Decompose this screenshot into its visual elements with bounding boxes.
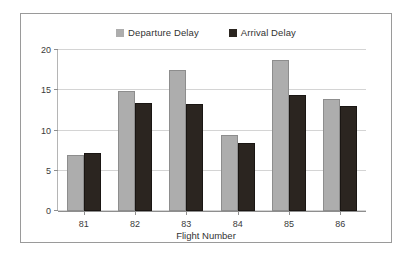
x-tick-mark (135, 211, 136, 215)
bar-arrival-81[interactable] (84, 153, 101, 211)
y-tick-label: 5 (46, 166, 51, 176)
bar-arrival-86[interactable] (340, 106, 357, 211)
bar-group (315, 50, 366, 211)
bar-arrival-84[interactable] (238, 143, 255, 211)
x-tick-cell: 86 (315, 215, 366, 229)
legend-label-arrival-delay: Arrival Delay (241, 27, 296, 38)
bar-series-container (58, 50, 366, 211)
x-tick-label: 86 (315, 215, 366, 229)
x-tick-label: 83 (161, 215, 212, 229)
x-tick-cell: 84 (212, 215, 263, 229)
x-tick-mark (340, 211, 341, 215)
legend-swatch-departure-delay (116, 29, 124, 37)
bar-group (58, 50, 109, 211)
x-tick-label: 84 (212, 215, 263, 229)
bar-group (109, 50, 160, 211)
x-axis-line (58, 211, 366, 212)
x-axis-title: Flight Number (21, 230, 391, 241)
bar-arrival-85[interactable] (289, 95, 306, 211)
bar-group (161, 50, 212, 211)
y-tick-label: 0 (46, 206, 51, 216)
x-tick-label: 81 (58, 215, 109, 229)
bar-group (263, 50, 314, 211)
bar-group (212, 50, 263, 211)
x-tick-mark (238, 211, 239, 215)
bar-departure-83[interactable] (169, 70, 186, 211)
bar-departure-81[interactable] (67, 155, 84, 211)
bar-arrival-83[interactable] (186, 104, 203, 211)
x-tick-cell: 82 (109, 215, 160, 229)
y-tick-label: 20 (41, 45, 51, 55)
x-tick-label: 82 (109, 215, 160, 229)
bar-arrival-82[interactable] (135, 103, 152, 211)
y-tick-label: 10 (41, 126, 51, 136)
x-tick-cell: 81 (58, 215, 109, 229)
bar-departure-82[interactable] (118, 91, 135, 211)
x-tick-mark (289, 211, 290, 215)
plot-area: 05101520 (58, 50, 366, 211)
legend-entry-departure-delay: Departure Delay (116, 27, 199, 38)
chart-legend: Departure Delay Arrival Delay (21, 27, 391, 38)
x-tick-label: 85 (263, 215, 314, 229)
legend-swatch-arrival-delay (229, 29, 237, 37)
x-tick-mark (186, 211, 187, 215)
bar-departure-84[interactable] (221, 135, 238, 211)
x-tick-cell: 83 (161, 215, 212, 229)
x-tick-mark (84, 211, 85, 215)
x-tick-cell: 85 (263, 215, 314, 229)
y-tick-label: 15 (41, 85, 51, 95)
chart-frame: Departure Delay Arrival Delay 05101520 8… (20, 13, 392, 243)
legend-label-departure-delay: Departure Delay (128, 27, 199, 38)
bar-departure-85[interactable] (272, 60, 289, 211)
bar-departure-86[interactable] (323, 99, 340, 211)
x-axis-tick-labels: 818283848586 (58, 215, 366, 229)
legend-entry-arrival-delay: Arrival Delay (229, 27, 296, 38)
